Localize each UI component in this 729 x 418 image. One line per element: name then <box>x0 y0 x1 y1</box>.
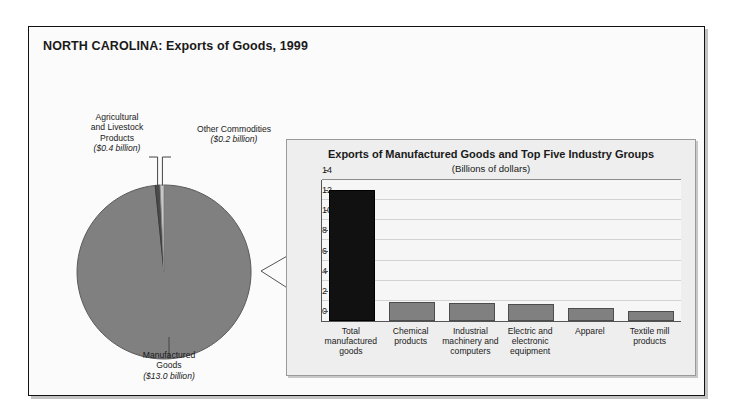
x-axis-label: Chemical products <box>381 326 441 357</box>
x-axis-label: Total manufactured goods <box>321 326 381 357</box>
pie-label-manufactured-amount: ($13.0 billion) <box>143 371 195 381</box>
pie-label-manufactured: Manufactured Goods ($13.0 billion) <box>107 339 231 381</box>
bar <box>508 304 554 321</box>
pie-label-other-name: Other Commodities <box>197 124 271 134</box>
leader-line-other <box>162 157 171 186</box>
bar-chart-subtitle: (Billions of dollars) <box>287 163 695 174</box>
bar-slot <box>382 180 442 321</box>
bar-plot-wrap: 02468101214 <box>321 180 681 322</box>
bar <box>568 308 614 321</box>
x-axis-label: Textile mill products <box>620 326 680 357</box>
pie-label-agricultural-amount: ($0.4 billion) <box>94 143 141 153</box>
bar <box>329 190 375 321</box>
x-axis-label: Electric and electronic equipment <box>500 326 560 357</box>
bar-slot <box>442 180 502 321</box>
bar <box>449 303 495 321</box>
pie-label-agricultural-name: Agricultural and Livestock Products <box>91 112 144 143</box>
bar-chart-title: Exports of Manufactured Goods and Top Fi… <box>287 148 695 160</box>
bar-slot <box>322 180 382 321</box>
x-axis-label: Apparel <box>560 326 620 357</box>
page-title: NORTH CAROLINA: Exports of Goods, 1999 <box>43 39 308 53</box>
y-axis-tick-label: 14 <box>322 165 327 175</box>
pie-label-other-amount: ($0.2 billion) <box>211 134 258 144</box>
pie-label-other: Other Commodities ($0.2 billion) <box>175 113 293 145</box>
pie-label-manufactured-name: Manufactured Goods <box>143 350 196 371</box>
bar-series <box>322 180 681 321</box>
leader-line-agricultural <box>149 157 158 186</box>
bar-slot <box>621 180 681 321</box>
bar <box>389 302 435 321</box>
bar-slot <box>561 180 621 321</box>
bar <box>628 311 674 321</box>
pie-label-agricultural: Agricultural and Livestock Products ($0.… <box>69 101 165 154</box>
pie-chart-block: Agricultural and Livestock Products ($0.… <box>29 57 309 387</box>
chart-card: NORTH CAROLINA: Exports of Goods, 1999 A… <box>28 26 705 396</box>
x-axis-label: Industrial machinery and computers <box>441 326 501 357</box>
x-axis-labels: Total manufactured goodsChemical product… <box>321 326 681 357</box>
bar-chart-panel: Exports of Manufactured Goods and Top Fi… <box>286 139 696 376</box>
bar-slot <box>502 180 562 321</box>
bar-plot-area: 02468101214 <box>321 180 681 322</box>
